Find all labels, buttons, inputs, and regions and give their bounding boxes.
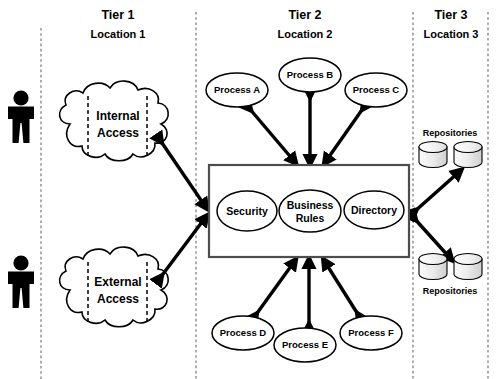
process-e-label: Process E	[282, 339, 328, 350]
repo-group-bottom: Repositories	[419, 254, 482, 297]
process-d: Process D	[212, 316, 274, 350]
architecture-diagram: Tier 1 Location 1 Tier 2 Location 2 Tier…	[0, 0, 499, 379]
tier-2-location: Location 2	[277, 28, 332, 40]
person-icon	[8, 255, 34, 308]
internal-access-cloud: Internal Access	[60, 81, 169, 161]
process-a: Process A	[206, 73, 268, 107]
conn-core-to-process-f	[325, 262, 359, 316]
database-icon	[419, 142, 447, 168]
process-c-label: Process C	[353, 84, 400, 95]
actor-bottom	[8, 255, 34, 308]
security-node: Security	[217, 191, 277, 231]
internal-access-label-line2: Access	[97, 126, 139, 140]
tier-3-title: Tier 3	[434, 8, 467, 22]
business-rules-label-line2: Rules	[296, 212, 325, 224]
process-d-label: Process D	[220, 327, 267, 338]
tier-1-location: Location 1	[90, 28, 145, 40]
process-c: Process C	[345, 73, 407, 107]
external-access-label-line1: External	[94, 275, 141, 289]
database-icon	[419, 254, 447, 280]
core-services-box: Security Business Rules Directory	[209, 165, 409, 257]
actor-top	[8, 90, 34, 143]
process-f: Process F	[340, 316, 402, 350]
business-rules-label-line1: Business	[287, 199, 334, 211]
business-rules-node: Business Rules	[279, 190, 341, 232]
process-b: Process B	[279, 58, 341, 92]
process-a-label: Process A	[214, 84, 260, 95]
repo-group-top-label: Repositories	[423, 128, 478, 138]
person-icon	[8, 90, 34, 143]
directory-node: Directory	[344, 191, 404, 229]
diagram-canvas: Tier 1 Location 1 Tier 2 Location 2 Tier…	[0, 0, 499, 379]
conn-core-to-process-c	[326, 107, 364, 161]
directory-label: Directory	[351, 204, 397, 216]
tier-1-title: Tier 1	[101, 8, 134, 22]
repo-group-top: Repositories	[419, 128, 482, 168]
external-access-cloud: External Access	[60, 247, 169, 327]
conn-core-to-repo-top	[414, 172, 459, 212]
tier-3-location: Location 3	[423, 28, 478, 40]
conn-core-to-process-a	[249, 108, 294, 161]
security-label: Security	[226, 205, 268, 217]
conn-core-to-repo-bottom	[414, 218, 450, 258]
tier-2-title: Tier 2	[288, 8, 321, 22]
tier-headings: Tier 1 Location 1 Tier 2 Location 2 Tier…	[90, 8, 478, 40]
database-icon	[454, 254, 482, 280]
process-e: Process E	[274, 328, 336, 362]
process-b-label: Process B	[287, 69, 334, 80]
repo-group-bottom-label: Repositories	[423, 286, 478, 296]
internal-access-label-line1: Internal	[96, 109, 139, 123]
conn-external-to-core	[160, 218, 205, 278]
external-access-label-line2: Access	[97, 292, 139, 306]
conn-internal-to-core	[160, 140, 205, 206]
process-f-label: Process F	[348, 327, 394, 338]
conn-core-to-process-d	[255, 262, 294, 316]
database-icon	[454, 142, 482, 168]
